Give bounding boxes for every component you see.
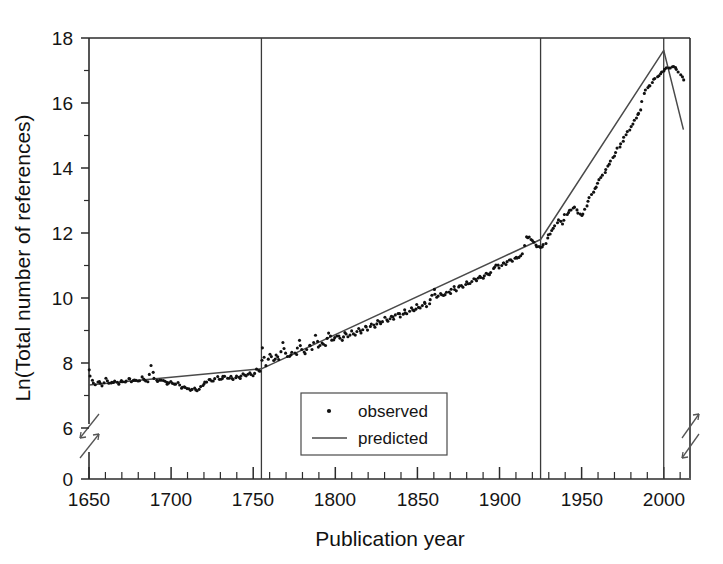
- observed-point: [421, 304, 424, 307]
- observed-point: [375, 322, 378, 325]
- legend-label-predicted: predicted: [358, 429, 428, 448]
- observed-data-points: [88, 65, 686, 392]
- observed-point: [355, 330, 358, 333]
- observed-point: [329, 334, 332, 337]
- observed-point: [601, 174, 604, 177]
- observed-point: [365, 325, 368, 328]
- observed-point: [575, 208, 578, 211]
- observed-point: [614, 151, 617, 154]
- observed-point: [613, 155, 616, 158]
- observed-point: [445, 291, 448, 294]
- observed-point: [423, 302, 426, 305]
- observed-point: [628, 128, 631, 131]
- observed-point: [198, 388, 201, 391]
- observed-point: [631, 123, 634, 126]
- observed-point: [630, 125, 633, 128]
- observed-point: [542, 243, 545, 246]
- observed-point: [544, 242, 547, 245]
- observed-point: [383, 316, 386, 319]
- observed-point: [342, 335, 345, 338]
- observed-point: [318, 344, 321, 347]
- observed-point: [563, 213, 566, 216]
- y-tick-label-10: 10: [52, 288, 73, 309]
- observed-point: [549, 232, 552, 235]
- observed-point: [276, 355, 279, 358]
- observed-point: [270, 355, 273, 358]
- observed-point: [213, 377, 216, 380]
- observed-point: [152, 371, 155, 374]
- observed-point: [433, 293, 436, 296]
- observed-point: [178, 383, 181, 386]
- observed-point: [497, 264, 500, 267]
- publication-year-references-chart: 18 16 14 12 10 8 6 0 1650 1700 1750 1800…: [0, 0, 723, 564]
- observed-point: [359, 331, 362, 334]
- observed-point: [415, 303, 418, 306]
- y-axis-tick-labels: 18 16 14 12 10 8 6 0: [52, 28, 74, 490]
- observed-point: [609, 159, 612, 162]
- observed-point: [348, 334, 351, 337]
- y-tick-label-6: 6: [62, 418, 73, 439]
- observed-point: [277, 358, 280, 361]
- observed-point: [573, 206, 576, 209]
- observed-point: [675, 68, 678, 71]
- observed-point: [205, 381, 208, 384]
- observed-point: [128, 377, 131, 380]
- observed-point: [521, 252, 524, 255]
- observed-point: [429, 298, 432, 301]
- y-tick-label-12: 12: [52, 223, 73, 244]
- observed-point: [366, 329, 369, 332]
- observed-point: [604, 171, 607, 174]
- y-tick-label-18: 18: [52, 28, 73, 49]
- y-axis-title: Ln(Total number of references): [11, 114, 34, 401]
- observed-point: [665, 66, 668, 69]
- observed-point: [651, 81, 654, 84]
- observed-point: [345, 333, 348, 336]
- observed-point: [284, 352, 287, 355]
- observed-point: [152, 377, 155, 380]
- observed-point: [148, 373, 151, 376]
- observed-point: [91, 379, 94, 382]
- observed-point: [99, 382, 102, 385]
- observed-point: [559, 220, 562, 223]
- observed-point: [637, 112, 640, 115]
- observed-point: [648, 84, 651, 87]
- observed-point: [595, 186, 598, 189]
- legend: observed predicted: [301, 393, 447, 455]
- observed-point: [585, 204, 588, 207]
- observed-point: [428, 302, 431, 305]
- observed-point: [361, 328, 364, 331]
- observed-point: [146, 380, 149, 383]
- observed-point: [475, 279, 478, 282]
- observed-point: [338, 337, 341, 340]
- observed-point: [261, 346, 264, 349]
- observed-point: [308, 344, 311, 347]
- observed-point: [324, 344, 327, 347]
- observed-point: [640, 100, 643, 103]
- observed-point: [88, 368, 91, 371]
- observed-point: [190, 388, 193, 391]
- observed-point: [399, 315, 402, 318]
- y-tick-label-14: 14: [52, 158, 74, 179]
- observed-point: [386, 320, 389, 323]
- observed-point: [528, 236, 531, 239]
- observed-point: [511, 260, 514, 263]
- observed-point: [341, 339, 344, 342]
- observed-point: [398, 312, 401, 315]
- observed-point: [532, 241, 535, 244]
- observed-point: [581, 212, 584, 215]
- observed-point: [216, 375, 219, 378]
- observed-point: [125, 379, 128, 382]
- observed-point: [263, 356, 266, 359]
- observed-point: [455, 289, 458, 292]
- observed-point: [174, 383, 177, 386]
- observed-point: [483, 274, 486, 277]
- observed-point: [373, 326, 376, 329]
- observed-point: [253, 372, 256, 375]
- x-tick-label-1900: 1900: [479, 489, 521, 510]
- observed-point: [89, 374, 92, 377]
- chart-figure: 18 16 14 12 10 8 6 0 1650 1700 1750 1800…: [0, 0, 723, 564]
- y-tick-label-16: 16: [52, 93, 73, 114]
- observed-point: [450, 288, 453, 291]
- observed-point: [392, 318, 395, 321]
- y-tick-label-0: 0: [62, 469, 73, 490]
